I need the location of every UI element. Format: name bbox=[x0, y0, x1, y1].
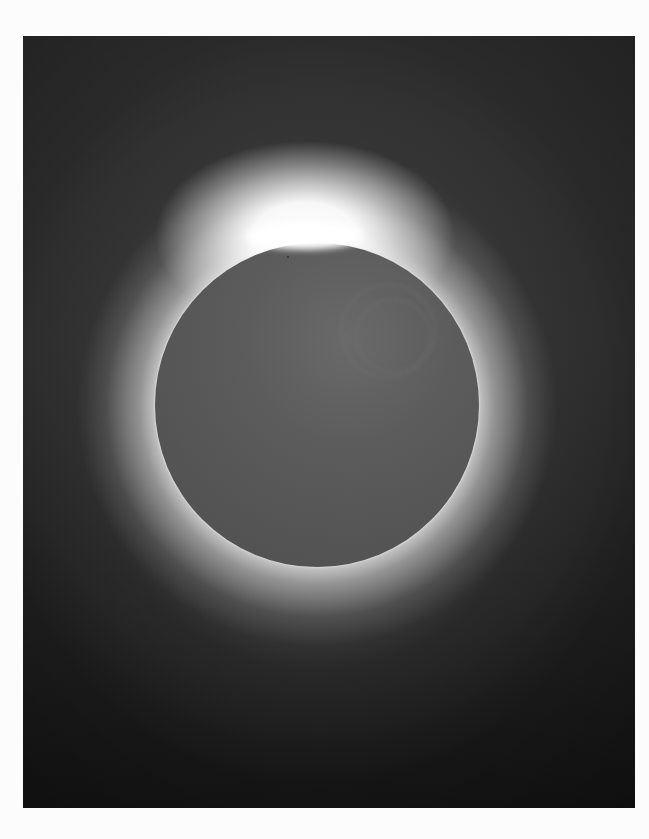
dust-speck bbox=[287, 256, 289, 258]
moon-disc bbox=[155, 243, 479, 567]
diamond-ring-core bbox=[245, 222, 365, 250]
eclipse-photo bbox=[23, 36, 635, 808]
moon-surface-arc-inner bbox=[355, 298, 431, 374]
page bbox=[0, 0, 649, 839]
